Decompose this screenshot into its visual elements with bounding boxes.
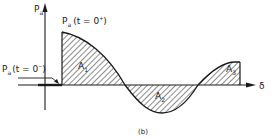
x-axis-label: δ — [259, 81, 265, 91]
y-axis-label: Pa — [34, 4, 43, 16]
area-a1 — [62, 32, 125, 85]
x-axis-arrowhead — [246, 83, 256, 88]
y-axis-arrowhead — [43, 3, 48, 12]
figure-caption: (b) — [138, 128, 148, 136]
initial-power-label: Pa(t = 0+) — [62, 15, 107, 28]
pointer-arrow-line — [18, 78, 57, 82]
pre-fault-power-label: Pa(t = 0−) — [2, 63, 46, 76]
power-angle-diagram: Pa Pa(t = 0+) Pa(t = 0−) A1 A2 A3 δ (b) — [0, 0, 272, 138]
